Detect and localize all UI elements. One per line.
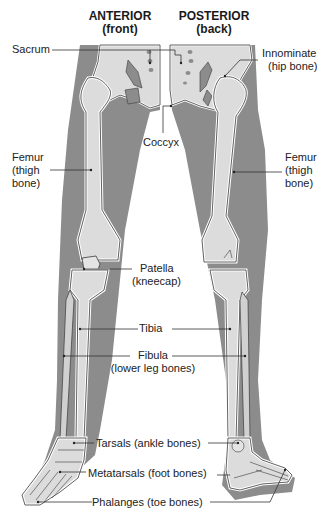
label-femur-posterior-line2: (thigh [285,164,317,177]
label-fibula-line1: Fibula [108,349,198,362]
label-femur-anterior: Femur (thigh bone) [12,151,44,190]
anterior-pubis-gap [125,88,140,104]
label-femur-posterior-line1: Femur [285,151,317,164]
label-patella-line1: Patella [132,262,181,275]
label-fibula: Fibula (lower leg bones) [108,349,198,375]
anterior-heading: ANTERIOR (front) [85,10,155,36]
label-tarsals: Tarsals (ankle bones) [96,437,201,450]
label-femur-anterior-line2: (thigh [12,164,44,177]
label-sacrum: Sacrum [12,43,50,56]
label-fibula-line2: (lower leg bones) [108,362,198,375]
label-femur-posterior: Femur (thigh bone) [285,151,317,190]
label-phalanges: Phalanges (toe bones) [92,496,203,509]
label-metatarsals: Metatarsals (foot bones) [88,467,207,480]
anterior-foot [22,438,86,505]
label-patella: Patella (kneecap) [132,262,181,288]
label-innominate: Innominate (hip bone) [262,47,318,73]
anterior-subtitle: (front) [85,23,155,36]
posterior-heading: POSTERIOR (back) [174,10,254,36]
label-femur-posterior-line3: bone) [285,177,317,190]
label-coccyx: Coccyx [143,136,179,149]
label-femur-anterior-line3: bone) [12,177,44,190]
label-innominate-line1: Innominate [262,47,318,60]
label-innominate-line2: (hip bone) [262,60,318,73]
label-femur-anterior-line1: Femur [12,151,44,164]
posterior-subtitle: (back) [174,23,254,36]
label-patella-line2: (kneecap) [132,275,181,288]
label-tibia: Tibia [139,322,162,335]
